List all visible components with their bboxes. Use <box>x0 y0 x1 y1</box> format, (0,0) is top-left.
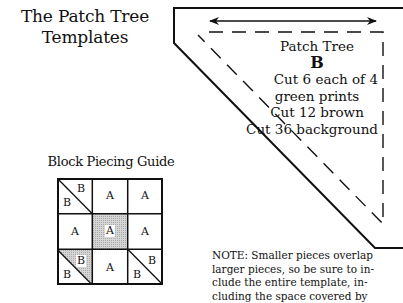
cell-label-a: A <box>106 190 114 202</box>
cell-label-a: A <box>71 226 79 238</box>
instruction-line: green prints <box>228 88 378 105</box>
cell-label-a: A <box>105 225 115 237</box>
cell-label-b: B <box>77 183 85 195</box>
cell-label-a: A <box>106 262 114 274</box>
cell-label-a: A <box>141 226 149 238</box>
note-line: larger pieces, so be sure to in- <box>212 263 400 277</box>
note-line: NOTE: Smaller pieces overlap <box>212 249 400 263</box>
overlap-note: NOTE: Smaller pieces overlap larger piec… <box>212 249 400 303</box>
cell-label-b: B <box>76 255 86 267</box>
template-name: Patch Tree <box>228 38 378 55</box>
instruction-line: Cut 12 brown <box>228 104 378 121</box>
cell-label-b: B <box>133 269 141 281</box>
cell-label-b: B <box>148 255 156 267</box>
cell-label-a: A <box>141 190 149 202</box>
instruction-line: Cut 6 each of 4 <box>228 71 378 88</box>
template-letter: B <box>228 55 378 72</box>
instruction-line: Cut 36 background <box>228 121 378 138</box>
cell-label-b: B <box>63 269 71 281</box>
note-line: cluding the space covered by <box>212 290 400 303</box>
guide-title: Block Piecing Guide <box>36 154 186 169</box>
cell-label-b: B <box>63 197 71 209</box>
note-line: clude the entire template, in- <box>212 276 400 290</box>
template-label: Patch Tree B Cut 6 each of 4 green print… <box>228 38 378 137</box>
block-piecing-grid: B B A A A A A B B A B B <box>57 178 163 285</box>
